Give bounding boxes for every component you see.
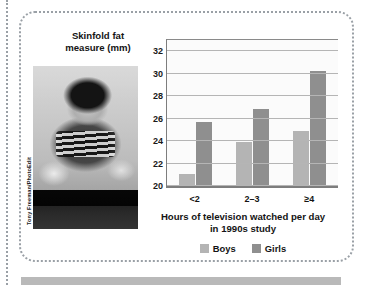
chart-legend: BoysGirls	[143, 243, 343, 254]
y-axis-tick-label: 28	[153, 91, 163, 101]
gridline: 26	[167, 118, 338, 119]
photo-shirt-stripes	[56, 131, 115, 157]
y-axis-title: Skinfold fat measure (mm)	[52, 30, 144, 55]
bar-girls-2	[253, 109, 269, 186]
legend-swatch-girls	[252, 244, 261, 253]
y-axis-tick-label: 32	[153, 46, 163, 56]
photo-image	[33, 66, 138, 229]
bar-girls-3	[310, 71, 326, 186]
gridline: 32	[167, 50, 338, 51]
gridline: 20	[167, 185, 338, 186]
bar-group	[179, 40, 212, 186]
y-axis-tick-label: 20	[153, 181, 163, 191]
y-axis-tick-label: 30	[153, 69, 163, 79]
x-axis-tick-label: 2–3	[235, 194, 268, 204]
x-axis-title-line1: Hours of television watched per day	[143, 211, 343, 223]
legend-label-boys: Boys	[213, 243, 236, 254]
legend-label-girls: Girls	[265, 243, 286, 254]
legend-item-boys: Boys	[200, 243, 236, 254]
gridline: 30	[167, 73, 338, 74]
x-axis-title: Hours of television watched per day in 1…	[143, 211, 343, 236]
figure-page: Tony Freeman/PhotoEdit Skinfold fat meas…	[0, 0, 369, 285]
y-axis-title-line2: measure (mm)	[52, 42, 144, 54]
y-axis-title-line1: Skinfold fat	[52, 30, 144, 42]
bar-chart: 20222426283032 <22–3≥4	[144, 33, 340, 200]
gridline: 28	[167, 95, 338, 96]
y-axis-tick-label: 22	[153, 159, 163, 169]
bar-group	[293, 40, 326, 186]
bar-boys-2	[236, 142, 252, 186]
x-axis-title-line2: in 1990s study	[143, 223, 343, 235]
bar-girls-1	[196, 122, 212, 186]
x-axis-tick-label: <2	[178, 194, 211, 204]
x-axis-tick-label: ≥4	[293, 194, 326, 204]
x-axis-ticks: <22–3≥4	[166, 194, 338, 204]
legend-item-girls: Girls	[252, 243, 286, 254]
gridline: 24	[167, 140, 338, 141]
gridline: 22	[167, 163, 338, 164]
legend-swatch-boys	[200, 244, 209, 253]
photo-credit: Tony Freeman/PhotoEdit	[26, 157, 32, 225]
bar-group	[236, 40, 269, 186]
y-axis-tick-label: 24	[153, 136, 163, 146]
bar-groups	[167, 40, 338, 186]
y-axis-tick-label: 26	[153, 114, 163, 124]
plot-area: 20222426283032	[166, 39, 338, 188]
photo: Tony Freeman/PhotoEdit	[33, 66, 138, 229]
bottom-gray-bar	[21, 277, 341, 285]
page-left-rule	[6, 0, 8, 285]
